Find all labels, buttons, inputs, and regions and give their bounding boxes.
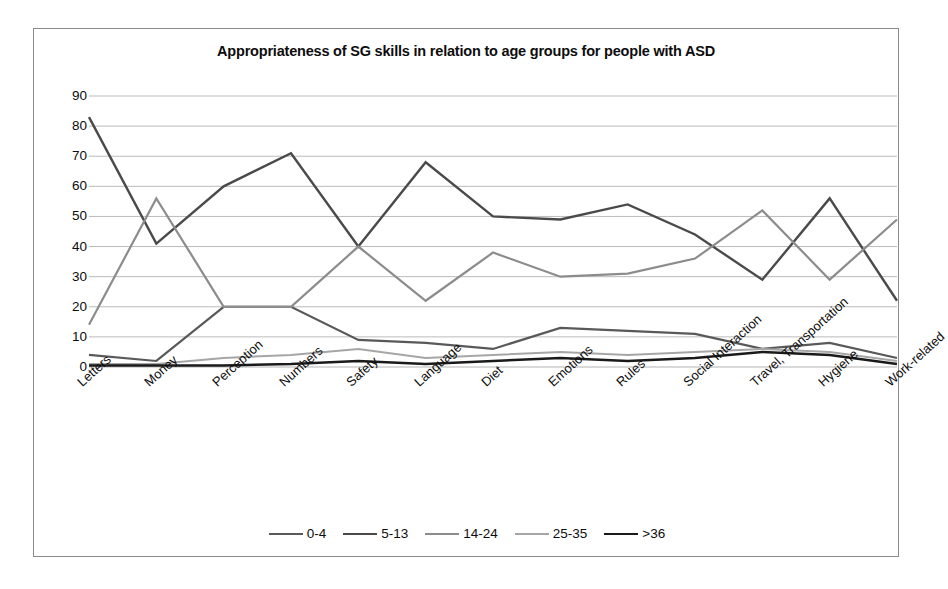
x-tick-label: Diet <box>479 364 505 389</box>
legend-item[interactable]: 5-13 <box>343 527 408 541</box>
x-tick-label: Letters <box>75 352 113 388</box>
legend-item[interactable]: 0-4 <box>269 527 327 541</box>
legend-label: >36 <box>642 527 665 541</box>
legend-item[interactable]: 14-24 <box>425 527 498 541</box>
legend-item[interactable]: 25-35 <box>515 527 588 541</box>
legend-label: 25-35 <box>553 527 588 541</box>
legend-label: 0-4 <box>307 527 327 541</box>
legend-swatch-line-icon <box>515 533 549 535</box>
legend-swatch-line-icon <box>425 533 459 535</box>
x-tick-label: Safety <box>344 354 380 388</box>
chart-legend: 0-45-1314-2425-35>36 <box>34 527 900 541</box>
x-tick-label: Emotions <box>546 343 595 389</box>
legend-label: 5-13 <box>381 527 408 541</box>
legend-swatch-line-icon <box>269 533 303 535</box>
x-tick-label: Numbers <box>277 344 325 389</box>
legend-swatch-line-icon <box>604 533 638 535</box>
x-tick-label: Perception <box>210 337 265 388</box>
legend-swatch-line-icon <box>343 533 377 535</box>
x-tick-label: Money <box>142 353 180 389</box>
legend-label: 14-24 <box>463 527 498 541</box>
x-tick-label: Hygiene <box>816 347 860 389</box>
x-tick-label: Language <box>412 340 464 388</box>
x-tick-label: Rules <box>614 357 647 389</box>
x-tick-label: Work-related <box>883 329 947 388</box>
legend-item[interactable]: >36 <box>604 527 665 541</box>
x-axis: LettersMoneyPerceptionNumbersSafetyLangu… <box>34 29 900 558</box>
chart-figure: Appropriateness of SG skills in relation… <box>33 28 899 557</box>
